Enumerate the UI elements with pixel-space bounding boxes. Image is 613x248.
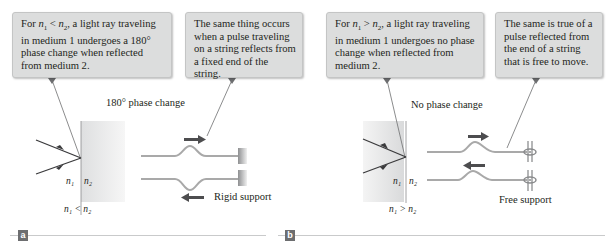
relation: <: [47, 18, 58, 29]
string-reflected-a: [141, 179, 238, 190]
n2-label-a: n₂: [84, 176, 92, 186]
divider-b-full: [278, 235, 605, 236]
n1-label-b: n₁: [393, 176, 401, 186]
panel-tag-a: a: [18, 230, 28, 241]
condition-label-a: n₁ < n₂: [64, 204, 91, 214]
phase-label-b: No phase change: [411, 99, 483, 110]
arrow-right-a: [184, 135, 206, 144]
arrow-left-b: [463, 161, 485, 170]
relation: >: [361, 18, 372, 29]
support-label-b: Free support: [499, 194, 552, 205]
phase-label-a: 180° phase change: [106, 97, 185, 108]
string-incident-a: [141, 146, 238, 156]
callout-light-a: For n1 < n2, a light ray traveling in me…: [12, 12, 172, 78]
condition-label-b: n₁ > n₂: [389, 204, 416, 214]
arrow-left-a: [181, 193, 204, 202]
string-reflected-b: [427, 171, 532, 180]
arrow-right-b: [468, 132, 489, 141]
medium-2-block-a: [81, 121, 125, 215]
rigid-wall-bottom: [238, 170, 247, 186]
leader-line: [507, 80, 536, 148]
callout-text: For: [335, 18, 352, 29]
callout-string-b: The same is true of a pulse reflected fr…: [495, 12, 603, 78]
n2-label-b: n₂: [409, 176, 417, 186]
rigid-wall-top: [238, 148, 247, 164]
leader-line: [52, 80, 80, 157]
leader-line: [207, 80, 232, 136]
support-label-a: Rigid support: [214, 191, 271, 202]
string-incident-b: [427, 142, 532, 152]
callout-text: For: [21, 18, 38, 29]
callout-string-a: The same thing occurs when a pulse trave…: [185, 12, 303, 78]
callout-light-b: For n1 > n2, a light ray traveling in me…: [326, 12, 484, 78]
n1-label-a: n₁: [66, 176, 74, 186]
divider-a: [10, 235, 266, 236]
panel-tag-b: b: [285, 230, 295, 241]
